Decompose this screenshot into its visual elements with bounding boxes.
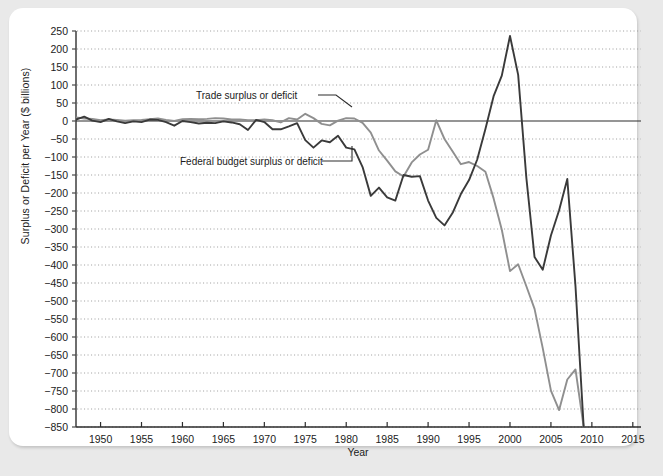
chart-container: 250200150100500−50−100−150−200−250−300−3… <box>0 0 663 476</box>
line-chart-svg: 250200150100500−50−100−150−200−250−300−3… <box>0 0 663 476</box>
x-tick-label: 1965 <box>212 433 236 445</box>
y-tick-label: 200 <box>50 43 68 55</box>
x-tick-label: 2015 <box>621 433 645 445</box>
y-tick-label: −650 <box>44 349 68 361</box>
x-tick-label: 1970 <box>253 433 277 445</box>
y-axis-title: Surplus or Deficit per Year ($ billions) <box>19 51 31 261</box>
y-tick-label: 150 <box>50 61 68 73</box>
x-tick-label: 1975 <box>294 433 318 445</box>
annotation-trade: Trade surplus or deficit <box>196 90 352 107</box>
y-tick-label: −550 <box>44 313 68 325</box>
annotation-budget-label: Federal budget surplus or deficit <box>180 156 323 167</box>
x-tick-label: 1995 <box>457 433 481 445</box>
x-axis-title: Year <box>347 446 369 458</box>
y-tick-label: −800 <box>44 403 68 415</box>
y-tick-label: −400 <box>44 259 68 271</box>
x-tick-label: 1985 <box>375 433 399 445</box>
x-axis-ticks: 1950195519601965197019751980198519901995… <box>89 422 645 445</box>
y-tick-label: −600 <box>44 331 68 343</box>
y-tick-label: 250 <box>50 25 68 37</box>
y-tick-label: −200 <box>44 187 68 199</box>
x-tick-label: 1955 <box>130 433 154 445</box>
x-tick-label: 2010 <box>580 433 604 445</box>
y-tick-label: −300 <box>44 223 68 235</box>
x-tick-label: 1950 <box>89 433 113 445</box>
y-tick-label: −50 <box>50 133 68 145</box>
x-tick-label: 1960 <box>171 433 195 445</box>
y-tick-label: −450 <box>44 277 68 289</box>
y-tick-label: −350 <box>44 241 68 253</box>
y-tick-label: −750 <box>44 385 68 397</box>
gridlines-group <box>77 31 641 427</box>
x-tick-label: 2005 <box>539 433 563 445</box>
y-tick-label: −850 <box>44 421 68 433</box>
annotation-trade-label: Trade surplus or deficit <box>196 90 298 101</box>
annotation-budget: Federal budget surplus or deficit <box>180 146 352 167</box>
y-axis-ticks: 250200150100500−50−100−150−200−250−300−3… <box>44 25 76 433</box>
y-tick-label: −500 <box>44 295 68 307</box>
y-tick-label: −700 <box>44 367 68 379</box>
x-tick-label: 2000 <box>498 433 522 445</box>
y-tick-label: −250 <box>44 205 68 217</box>
y-tick-label: −100 <box>44 151 68 163</box>
y-tick-label: 50 <box>56 97 68 109</box>
y-tick-label: −150 <box>44 169 68 181</box>
y-tick-label: 100 <box>50 79 68 91</box>
annotation-trade-leader <box>318 95 352 107</box>
x-tick-label: 1980 <box>335 433 359 445</box>
x-tick-label: 1990 <box>416 433 440 445</box>
y-tick-label: 0 <box>62 115 68 127</box>
